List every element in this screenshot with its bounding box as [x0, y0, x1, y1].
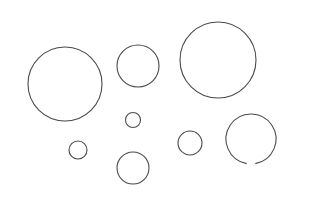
background [0, 0, 320, 211]
circles-diagram [0, 0, 320, 211]
